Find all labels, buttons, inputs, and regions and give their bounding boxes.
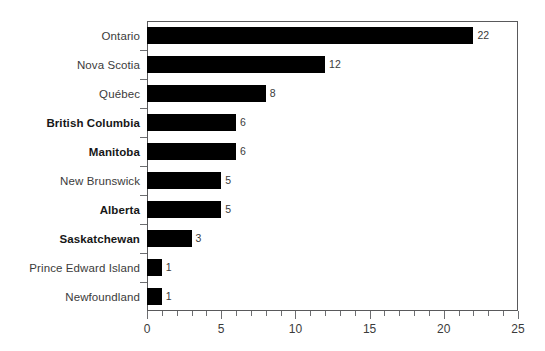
category-label: Newfoundland <box>0 291 140 303</box>
x-axis-minor-tick <box>281 311 282 316</box>
x-axis-tick-label: 5 <box>218 322 225 336</box>
x-axis-minor-tick <box>414 311 415 316</box>
x-axis-minor-tick <box>325 311 326 316</box>
x-axis-major-tick <box>518 311 519 319</box>
bar-value-label: 12 <box>329 57 341 72</box>
category-label: Alberta <box>0 204 140 216</box>
bar <box>147 288 162 305</box>
x-axis-minor-tick <box>340 311 341 316</box>
bar-row: 6 <box>147 108 518 137</box>
x-axis-major-tick <box>221 311 222 319</box>
x-axis-minor-tick <box>206 311 207 316</box>
y-axis-tick <box>140 137 147 138</box>
x-axis-major-tick <box>370 311 371 319</box>
category-label: Prince Edward Island <box>0 262 140 274</box>
bar-row: 8 <box>147 79 518 108</box>
x-axis-minor-tick <box>177 311 178 316</box>
bar-value-label: 5 <box>225 202 231 217</box>
bar-row: 1 <box>147 282 518 311</box>
category-label: Nova Scotia <box>0 59 140 71</box>
bar-value-label: 6 <box>240 144 246 159</box>
bar <box>147 143 236 160</box>
bar-row: 5 <box>147 166 518 195</box>
category-label: Ontario <box>0 30 140 42</box>
category-label: New Brunswick <box>0 175 140 187</box>
bar <box>147 114 236 131</box>
x-axis: 0510152025 <box>147 311 518 351</box>
bar <box>147 172 221 189</box>
x-axis-minor-tick <box>192 311 193 316</box>
x-axis-minor-tick <box>488 311 489 316</box>
x-axis-tick-label: 20 <box>437 322 450 336</box>
x-axis-tick-label: 25 <box>511 322 524 336</box>
bar-value-label: 8 <box>270 86 276 101</box>
x-axis-minor-tick <box>355 311 356 316</box>
bar-value-label: 3 <box>196 231 202 246</box>
bar <box>147 259 162 276</box>
bar-row: 12 <box>147 50 518 79</box>
x-axis-minor-tick <box>429 311 430 316</box>
y-axis-tick <box>140 282 147 283</box>
y-axis-tick <box>140 166 147 167</box>
x-axis-minor-tick <box>310 311 311 316</box>
category-label: Québec <box>0 88 140 100</box>
x-axis-tick-label: 0 <box>144 322 151 336</box>
x-axis-minor-tick <box>503 311 504 316</box>
category-label: Manitoba <box>0 146 140 158</box>
bar-value-label: 1 <box>166 289 172 304</box>
bar <box>147 56 325 73</box>
bar <box>147 85 266 102</box>
bar-row: 6 <box>147 137 518 166</box>
bar-value-label: 1 <box>166 260 172 275</box>
category-label: Saskatchewan <box>0 233 140 245</box>
x-axis-minor-tick <box>473 311 474 316</box>
x-axis-minor-tick <box>266 311 267 316</box>
y-axis-tick <box>140 50 147 51</box>
x-axis-minor-tick <box>399 311 400 316</box>
y-axis-tick <box>140 79 147 80</box>
bar <box>147 230 192 247</box>
category-axis-labels: OntarioNova ScotiaQuébecBritish Columbia… <box>0 21 140 311</box>
bar-chart: OntarioNova ScotiaQuébecBritish Columbia… <box>0 0 545 351</box>
x-axis-major-tick <box>295 311 296 319</box>
bar-value-label: 6 <box>240 115 246 130</box>
bar-row: 3 <box>147 224 518 253</box>
x-axis-minor-tick <box>384 311 385 316</box>
y-axis-tick <box>140 253 147 254</box>
y-axis-tick <box>140 195 147 196</box>
bar <box>147 27 473 44</box>
x-axis-major-tick <box>444 311 445 319</box>
x-axis-minor-tick <box>162 311 163 316</box>
y-axis-tick <box>140 224 147 225</box>
x-axis-minor-tick <box>459 311 460 316</box>
category-label: British Columbia <box>0 117 140 129</box>
bar-row: 5 <box>147 195 518 224</box>
bar-row: 1 <box>147 253 518 282</box>
x-axis-major-tick <box>147 311 148 319</box>
bar-value-label: 5 <box>225 173 231 188</box>
x-axis-tick-label: 15 <box>363 322 376 336</box>
x-axis-minor-tick <box>251 311 252 316</box>
bars-layer: 221286655311 <box>147 21 518 311</box>
x-axis-tick-label: 10 <box>289 322 302 336</box>
y-axis-tick <box>140 108 147 109</box>
bar-row: 22 <box>147 21 518 50</box>
bar <box>147 201 221 218</box>
bar-value-label: 22 <box>477 28 489 43</box>
x-axis-minor-tick <box>236 311 237 316</box>
